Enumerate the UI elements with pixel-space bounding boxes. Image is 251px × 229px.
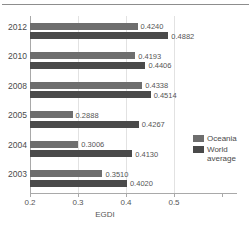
x-axis-tick <box>126 193 127 197</box>
x-axis-tick <box>222 193 223 197</box>
y-axis-category-label: 2003 <box>0 169 27 179</box>
bar <box>30 111 73 118</box>
y-axis-line <box>30 16 31 193</box>
x-axis-tick <box>30 193 31 197</box>
x-axis-tick-label: 0.3 <box>72 198 83 207</box>
legend-label: World average <box>207 145 236 164</box>
x-axis-tick-label: 0.4 <box>120 198 131 207</box>
bar-value-label: 0.3510 <box>105 169 128 178</box>
bar-value-label: 0.4267 <box>142 120 165 129</box>
legend-swatch-icon <box>193 135 204 142</box>
bar <box>30 141 78 148</box>
bar <box>30 23 138 30</box>
bar <box>30 52 135 59</box>
top-divider <box>2 4 249 5</box>
chart-figure: 0.20.30.40.5 201220102008200520042003 0.… <box>0 0 251 229</box>
bar-value-label: 0.4020 <box>130 179 153 188</box>
bar <box>30 62 145 69</box>
x-axis-tick-label: 0.2 <box>24 198 35 207</box>
y-axis-category-label: 2012 <box>0 22 27 32</box>
bar-value-label: 0.4193 <box>138 51 161 60</box>
gridline <box>174 16 175 193</box>
bar-value-label: 0.4514 <box>154 90 177 99</box>
legend-item[interactable]: World average <box>193 145 237 164</box>
y-axis-category-label: 2008 <box>0 81 27 91</box>
y-axis-category-label: 2005 <box>0 110 27 120</box>
bar-value-label: 0.4406 <box>148 61 171 70</box>
legend-swatch-icon <box>193 146 204 153</box>
x-axis-tick-label: 0.5 <box>168 198 179 207</box>
bar <box>30 180 127 187</box>
x-axis-title: EGDI <box>0 210 210 219</box>
bar-value-label: 0.4240 <box>141 22 164 31</box>
bar <box>30 82 142 89</box>
legend-item[interactable]: Oceania <box>193 134 237 144</box>
legend-label: Oceania <box>207 134 237 144</box>
gridline <box>78 16 79 193</box>
y-axis-category-label: 2004 <box>0 140 27 150</box>
bar <box>30 121 139 128</box>
bar <box>30 91 151 98</box>
x-axis-tick <box>174 193 175 197</box>
bar-value-label: 0.4130 <box>135 149 158 158</box>
bar <box>30 32 168 39</box>
bar <box>30 150 132 157</box>
x-axis-tick <box>78 193 79 197</box>
chart-legend: OceaniaWorld average <box>193 134 237 165</box>
bar-value-label: 0.2888 <box>76 110 99 119</box>
bar-value-label: 0.3006 <box>81 140 104 149</box>
bar-value-label: 0.4882 <box>171 31 194 40</box>
x-axis-line <box>30 193 237 194</box>
gridline <box>126 16 127 193</box>
bar-value-label: 0.4338 <box>145 81 168 90</box>
bar <box>30 170 102 177</box>
y-axis-category-label: 2010 <box>0 51 27 61</box>
